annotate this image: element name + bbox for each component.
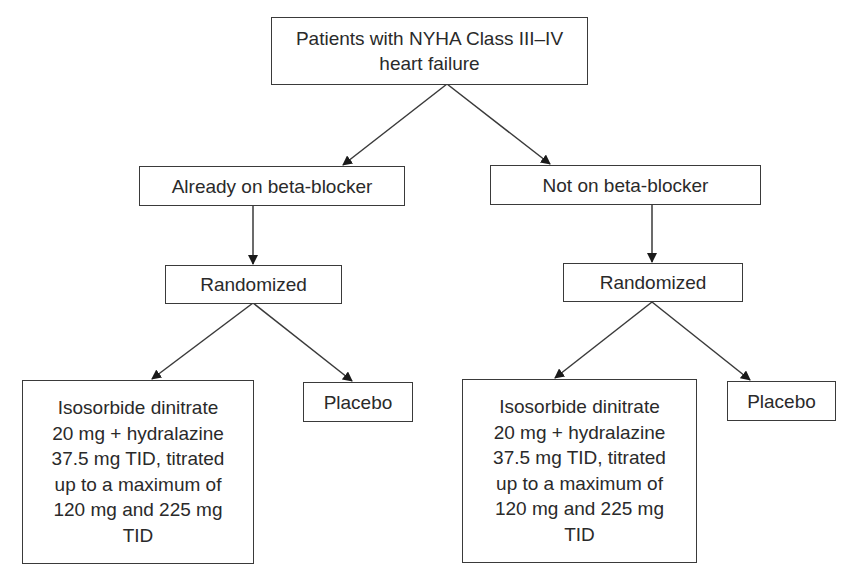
not-on-beta-blocker-node: Not on beta-blocker: [490, 165, 761, 205]
arrow-rand-right-to-treatment: [555, 302, 652, 378]
not-on-beta-blocker-label: Not on beta-blocker: [543, 173, 709, 198]
placebo-left-label: Placebo: [324, 390, 393, 415]
arrow-root-to-on-bb: [343, 84, 447, 165]
randomized-right-node: Randomized: [563, 263, 743, 302]
arrow-rand-right-to-placebo: [652, 302, 750, 380]
on-beta-blocker-label: Already on beta-blocker: [172, 174, 373, 199]
treatment-right-label: Isosorbide dinitrate 20 mg + hydralazine…: [493, 394, 666, 547]
randomized-right-label: Randomized: [600, 270, 707, 295]
root-node: Patients with NYHA Class III–IV heart fa…: [271, 17, 588, 85]
on-beta-blocker-node: Already on beta-blocker: [139, 166, 405, 206]
placebo-left-node: Placebo: [303, 382, 413, 422]
treatment-right-node: Isosorbide dinitrate 20 mg + hydralazine…: [462, 379, 697, 563]
root-label: Patients with NYHA Class III–IV heart fa…: [296, 26, 563, 76]
randomized-left-label: Randomized: [200, 272, 307, 297]
placebo-right-label: Placebo: [747, 389, 816, 414]
treatment-left-label: Isosorbide dinitrate 20 mg + hydralazine…: [52, 395, 225, 548]
arrow-rand-left-to-treatment: [152, 303, 253, 379]
randomized-left-node: Randomized: [165, 265, 342, 304]
placebo-right-node: Placebo: [727, 381, 836, 421]
arrow-root-to-not-bb: [447, 84, 550, 164]
arrow-rand-left-to-placebo: [253, 303, 352, 381]
treatment-left-node: Isosorbide dinitrate 20 mg + hydralazine…: [22, 380, 254, 564]
